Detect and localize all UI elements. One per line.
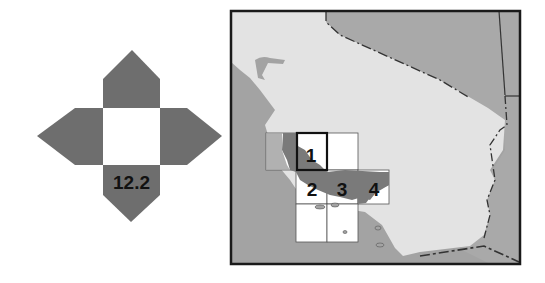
map-tile[interactable] bbox=[327, 204, 358, 242]
page-locator-compass: 12.2 bbox=[0, 0, 230, 283]
region-map: 1 2 3 4 bbox=[229, 9, 522, 266]
tile-label-3: 3 bbox=[337, 179, 348, 200]
map-tile[interactable] bbox=[327, 133, 358, 170]
current-page-square bbox=[103, 108, 160, 165]
tile-label-1: 1 bbox=[306, 145, 317, 166]
arrow-up-icon[interactable] bbox=[103, 50, 160, 108]
arrow-right-icon[interactable] bbox=[160, 108, 222, 165]
tile-label-4: 4 bbox=[369, 179, 380, 200]
tile-label-2: 2 bbox=[307, 179, 318, 200]
arrow-left-icon[interactable] bbox=[37, 108, 103, 165]
map-tile[interactable] bbox=[296, 204, 327, 242]
page-number-label: 12.2 bbox=[113, 172, 150, 193]
